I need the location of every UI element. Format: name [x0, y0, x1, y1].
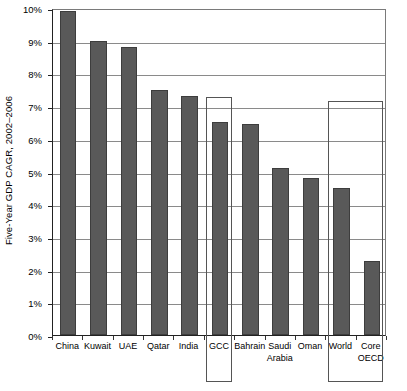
plot-area [52, 9, 386, 336]
bar-oman [303, 178, 320, 335]
x-label-gcc: GCC [204, 341, 234, 353]
gdp-cagr-bar-chart: Five-Year GDP CAGR, 2002–2006 0%1%2%3%4%… [0, 0, 407, 391]
x-label-bahrain: Bahrain [234, 341, 264, 353]
y-tick-label: 2% [28, 265, 42, 276]
y-tick-label: 5% [28, 167, 42, 178]
x-label-world: World [325, 341, 355, 353]
y-tick-label: 7% [28, 102, 42, 113]
y-tick-label: 4% [28, 200, 42, 211]
x-label-saudi-arabia: Saudi Arabia [265, 341, 295, 364]
y-tick-label: 8% [28, 69, 42, 80]
x-label-uae: UAE [113, 341, 143, 353]
x-tick-mark [52, 336, 53, 340]
x-label-core-oecd: Core OECD [356, 341, 386, 364]
x-tick-mark [265, 336, 266, 340]
x-label-kuwait: Kuwait [82, 341, 112, 353]
bar-bahrain [242, 124, 259, 335]
x-tick-mark [173, 336, 174, 340]
x-tick-mark [295, 336, 296, 340]
x-tick-mark [325, 336, 326, 340]
bar-world [333, 188, 350, 335]
bar-qatar [151, 90, 168, 335]
x-tick-mark [234, 336, 235, 340]
y-tick-label: 0% [28, 331, 42, 342]
bar-saudi-arabia [272, 168, 289, 335]
bar-kuwait [90, 41, 107, 335]
y-tick-label: 9% [28, 36, 42, 47]
bar-china [60, 11, 77, 335]
x-axis-category-labels: ChinaKuwaitUAEQatarIndiaGCCBahrainSaudi … [52, 341, 386, 375]
bar-gcc [212, 122, 229, 335]
x-tick-mark [82, 336, 83, 340]
bar-core-oecd [364, 261, 381, 335]
x-label-china: China [52, 341, 82, 353]
x-label-oman: Oman [295, 341, 325, 353]
bar-uae [121, 47, 138, 335]
x-label-qatar: Qatar [143, 341, 173, 353]
y-tick-label: 1% [28, 298, 42, 309]
y-tick-label: 3% [28, 232, 42, 243]
y-axis-tick-labels: 0%1%2%3%4%5%6%7%8%9%10% [0, 9, 48, 336]
y-tick-label: 6% [28, 134, 42, 145]
x-tick-mark [113, 336, 114, 340]
x-tick-mark [143, 336, 144, 340]
x-tick-mark [386, 336, 387, 340]
x-tick-mark [204, 336, 205, 340]
x-tick-mark [356, 336, 357, 340]
bar-series [53, 10, 385, 335]
y-tick-label: 10% [23, 4, 42, 15]
x-label-india: India [173, 341, 203, 353]
bar-india [181, 96, 198, 335]
